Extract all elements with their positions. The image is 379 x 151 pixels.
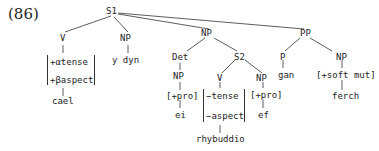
feature-beta-aspect: +βaspect (50, 75, 93, 85)
feature-minus-tense: −tense (206, 91, 239, 101)
node-s2: S2 (234, 52, 245, 62)
feature-alpha-tense: +αtense (50, 57, 88, 67)
node-p: P (280, 52, 285, 62)
node-det: Det (172, 52, 188, 62)
node-v: V (60, 33, 65, 43)
word-gan: gan (278, 70, 294, 80)
node-np-subject: NP (120, 33, 131, 43)
node-s1: S1 (106, 6, 117, 16)
node-v2: V (217, 73, 222, 83)
node-pp: PP (300, 28, 311, 38)
node-np4: NP (336, 52, 347, 62)
feature-pro-2: [+pro] (250, 90, 283, 100)
word-y-dyn: y dyn (112, 55, 139, 65)
word-ferch: ferch (332, 91, 359, 101)
feature-minus-aspect: −aspect (206, 111, 244, 121)
word-cael: cael (52, 96, 74, 106)
node-np-object: NP (201, 28, 212, 38)
word-ei: ei (175, 110, 186, 120)
word-ef: ef (258, 110, 269, 120)
feature-pro: [+pro] (166, 91, 199, 101)
feature-soft-mut: [+soft mut] (316, 70, 376, 80)
word-rhybuddio: rhybuddio (196, 134, 245, 144)
node-det-np: NP (173, 71, 184, 81)
node-np3: NP (256, 73, 267, 83)
